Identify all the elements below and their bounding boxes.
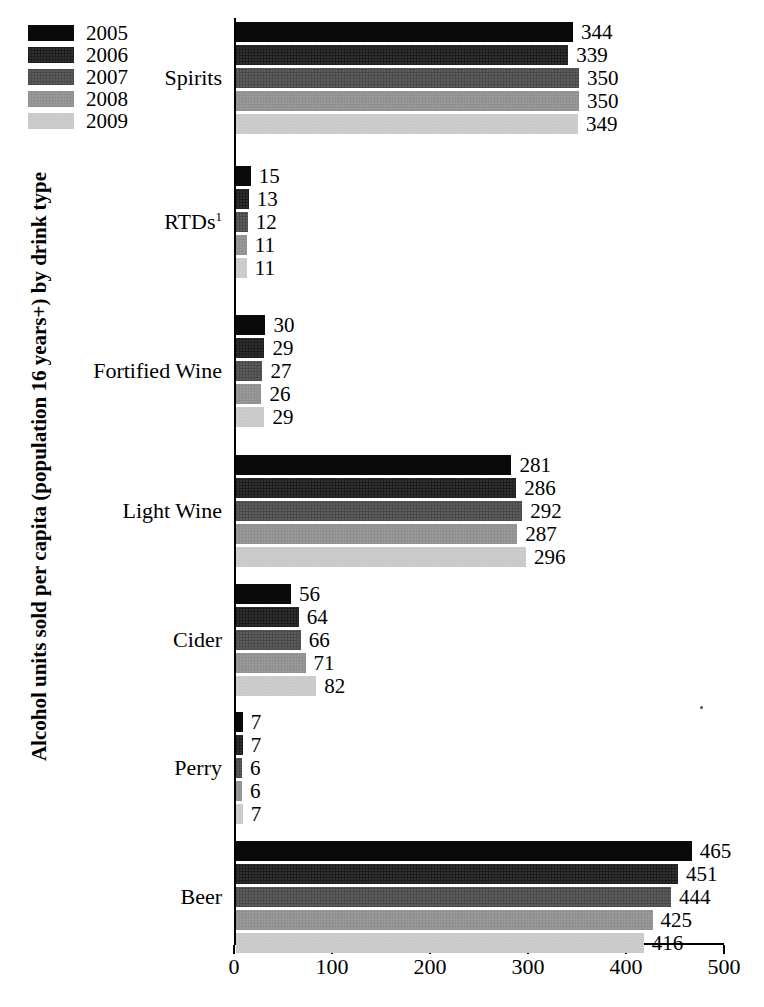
bar-value-Beer-2009: 416 bbox=[652, 933, 684, 953]
bar-FortifiedWine-2007[interactable] bbox=[236, 361, 262, 381]
plot-area: 0100200300400500 34433935035034915131211… bbox=[234, 18, 724, 945]
x-tick-label-500: 500 bbox=[708, 956, 741, 978]
bar-value-Perry-2005: 7 bbox=[251, 712, 262, 732]
bar-Spirits-2005[interactable] bbox=[236, 22, 573, 42]
bar-value-Cider-2005: 56 bbox=[299, 584, 320, 604]
bar-value-Cider-2008: 71 bbox=[314, 653, 335, 673]
bar-value-Perry-2007: 6 bbox=[250, 758, 261, 778]
legend-label-2005: 2005 bbox=[86, 23, 128, 44]
bar-value-RTDs-2005: 15 bbox=[259, 166, 280, 186]
category-label-Spirits: Spirits bbox=[0, 67, 222, 89]
bar-value-FortifiedWine-2005: 30 bbox=[273, 315, 294, 335]
bar-value-LightWine-2008: 287 bbox=[525, 524, 557, 544]
bar-RTDs-2009[interactable] bbox=[236, 258, 247, 278]
bar-Cider-2009[interactable] bbox=[236, 676, 316, 696]
bar-value-Spirits-2006: 339 bbox=[576, 45, 608, 65]
x-tick-500 bbox=[723, 945, 725, 954]
bar-Perry-2005[interactable] bbox=[236, 712, 243, 732]
bar-value-RTDs-2006: 13 bbox=[257, 189, 278, 209]
bar-value-Spirits-2008: 350 bbox=[587, 91, 619, 111]
bar-LightWine-2006[interactable] bbox=[236, 478, 516, 498]
bar-value-Spirits-2007: 350 bbox=[587, 68, 619, 88]
bar-FortifiedWine-2008[interactable] bbox=[236, 384, 261, 404]
category-label-Beer: Beer bbox=[0, 886, 222, 908]
bar-value-FortifiedWine-2007: 27 bbox=[270, 361, 291, 381]
bar-value-LightWine-2005: 281 bbox=[519, 455, 551, 475]
bar-Perry-2006[interactable] bbox=[236, 735, 243, 755]
bar-value-Spirits-2009: 349 bbox=[586, 114, 618, 134]
bar-LightWine-2009[interactable] bbox=[236, 547, 526, 567]
x-tick-0 bbox=[233, 945, 235, 954]
bar-RTDs-2006[interactable] bbox=[236, 189, 249, 209]
bar-value-Cider-2007: 66 bbox=[309, 630, 330, 650]
bar-Beer-2005[interactable] bbox=[236, 841, 692, 861]
bar-Cider-2007[interactable] bbox=[236, 630, 301, 650]
bar-Cider-2006[interactable] bbox=[236, 607, 299, 627]
bar-RTDs-2007[interactable] bbox=[236, 212, 248, 232]
bar-FortifiedWine-2005[interactable] bbox=[236, 315, 265, 335]
legend-label-2009: 2009 bbox=[86, 111, 128, 132]
x-tick-label-0: 0 bbox=[229, 956, 240, 978]
bar-value-Perry-2009: 7 bbox=[251, 804, 262, 824]
bar-value-Perry-2006: 7 bbox=[251, 735, 262, 755]
bar-value-Beer-2005: 465 bbox=[700, 841, 732, 861]
bar-Spirits-2007[interactable] bbox=[236, 68, 579, 88]
bar-value-LightWine-2006: 286 bbox=[524, 478, 556, 498]
legend-label-2008: 2008 bbox=[86, 89, 128, 110]
bar-value-Cider-2009: 82 bbox=[324, 676, 345, 696]
category-label-Cider: Cider bbox=[0, 629, 222, 651]
bar-value-Beer-2006: 451 bbox=[686, 864, 718, 884]
bar-RTDs-2008[interactable] bbox=[236, 235, 247, 255]
bar-LightWine-2008[interactable] bbox=[236, 524, 517, 544]
category-label-LightWine: Light Wine bbox=[0, 500, 222, 522]
bar-Beer-2008[interactable] bbox=[236, 910, 653, 930]
category-label-RTDs: RTDs1 bbox=[0, 211, 222, 233]
category-label-Perry: Perry bbox=[0, 757, 222, 779]
bar-value-FortifiedWine-2008: 26 bbox=[269, 384, 290, 404]
bar-LightWine-2005[interactable] bbox=[236, 455, 511, 475]
bar-Beer-2007[interactable] bbox=[236, 887, 671, 907]
x-tick-label-100: 100 bbox=[316, 956, 349, 978]
bar-value-FortifiedWine-2009: 29 bbox=[272, 407, 293, 427]
bar-value-LightWine-2009: 296 bbox=[534, 547, 566, 567]
bar-value-Spirits-2005: 344 bbox=[581, 22, 613, 42]
footnote-marker: 1 bbox=[216, 209, 223, 224]
y-axis-title: Alcohol units sold per capita (populatio… bbox=[24, 3, 54, 930]
x-tick-label-300: 300 bbox=[512, 956, 545, 978]
bar-value-RTDs-2007: 12 bbox=[256, 212, 277, 232]
bar-value-Beer-2008: 425 bbox=[661, 910, 693, 930]
bar-Cider-2008[interactable] bbox=[236, 653, 306, 673]
bar-value-Perry-2008: 6 bbox=[250, 781, 261, 801]
bar-value-RTDs-2008: 11 bbox=[255, 235, 275, 255]
bar-value-Beer-2007: 444 bbox=[679, 887, 711, 907]
bar-Beer-2006[interactable] bbox=[236, 864, 678, 884]
scan-artifact-dot bbox=[700, 706, 703, 709]
bar-value-FortifiedWine-2006: 29 bbox=[272, 338, 293, 358]
bar-FortifiedWine-2009[interactable] bbox=[236, 407, 264, 427]
legend-label-2006: 2006 bbox=[86, 45, 128, 66]
bar-LightWine-2007[interactable] bbox=[236, 501, 522, 521]
category-label-FortifiedWine: Fortified Wine bbox=[0, 360, 222, 382]
x-tick-label-400: 400 bbox=[610, 956, 643, 978]
bar-RTDs-2005[interactable] bbox=[236, 166, 251, 186]
bar-value-LightWine-2007: 292 bbox=[530, 501, 562, 521]
bar-Cider-2005[interactable] bbox=[236, 584, 291, 604]
bar-Beer-2009[interactable] bbox=[236, 933, 644, 953]
bar-value-Cider-2006: 64 bbox=[307, 607, 328, 627]
bar-value-RTDs-2009: 11 bbox=[255, 258, 275, 278]
bar-Spirits-2008[interactable] bbox=[236, 91, 579, 111]
bar-FortifiedWine-2006[interactable] bbox=[236, 338, 264, 358]
x-tick-label-200: 200 bbox=[414, 956, 447, 978]
bar-Perry-2007[interactable] bbox=[236, 758, 242, 778]
bar-Perry-2009[interactable] bbox=[236, 804, 243, 824]
bar-Spirits-2006[interactable] bbox=[236, 45, 568, 65]
bar-Perry-2008[interactable] bbox=[236, 781, 242, 801]
bar-Spirits-2009[interactable] bbox=[236, 114, 578, 134]
